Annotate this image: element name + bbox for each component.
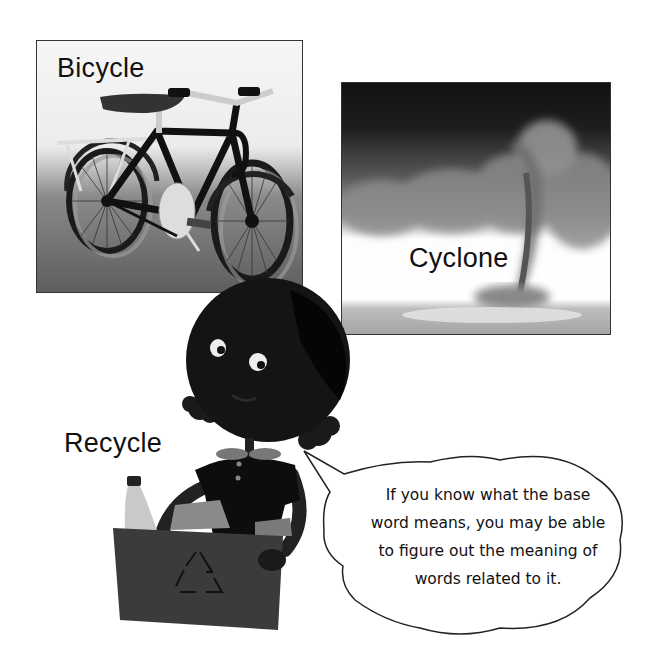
recycle-label: Recycle bbox=[64, 428, 162, 459]
bicycle-label: Bicycle bbox=[57, 53, 145, 84]
bubble-line: to figure out the meaning of bbox=[338, 537, 638, 565]
recycle-icon bbox=[176, 552, 222, 592]
recycling-bin bbox=[113, 528, 283, 630]
bubble-line: If you know what the base bbox=[338, 481, 638, 509]
bubble-line: word means, you may be able bbox=[338, 509, 638, 537]
speech-bubble-text: If you know what the base word means, yo… bbox=[338, 481, 638, 593]
cyclone-panel: Cyclone bbox=[341, 82, 611, 335]
bicycle-panel: Bicycle bbox=[36, 40, 303, 293]
head bbox=[186, 278, 350, 442]
pigtail-right-icon bbox=[298, 416, 340, 450]
bottle-icon bbox=[125, 476, 157, 530]
bubble-line: words related to it. bbox=[338, 565, 638, 593]
cyclone-label: Cyclone bbox=[409, 243, 509, 274]
tornado-icon bbox=[342, 83, 611, 335]
pigtail-left-icon bbox=[182, 396, 219, 423]
